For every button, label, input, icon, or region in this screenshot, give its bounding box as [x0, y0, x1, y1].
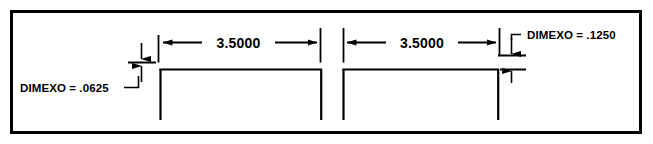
- drawing-canvas: 3.5000 3.5000 DIMEXO = .0625: [0, 0, 653, 144]
- annotation-dimexo-right: DIMEXO = .1250: [527, 29, 616, 41]
- offset-gauge-right: [498, 35, 526, 84]
- dimension-value-left: 3.5000: [216, 35, 260, 51]
- part-profile-left: [159, 69, 322, 120]
- dimension-value-right: 3.5000: [400, 35, 444, 51]
- extension-lines: [159, 28, 500, 63]
- offset-gauge-left: [124, 43, 156, 88]
- technical-drawing-figure: 3.5000 3.5000 DIMEXO = .0625: [0, 0, 653, 144]
- dimension-left-span: 3.5000: [163, 35, 317, 51]
- leader-line-right: [512, 35, 522, 41]
- annotation-dimexo-left: DIMEXO = .0625: [20, 82, 109, 94]
- part-profile-right: [342, 69, 499, 120]
- leader-line-left: [124, 76, 139, 88]
- dimension-right-span: 3.5000: [347, 35, 496, 51]
